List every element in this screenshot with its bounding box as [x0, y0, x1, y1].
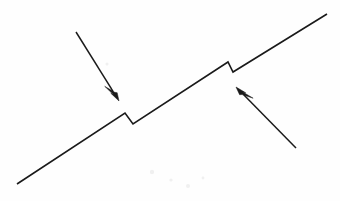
figure-canvas: Rising line with two downward step disco…	[0, 0, 340, 201]
line-diagram-svg	[0, 0, 340, 201]
